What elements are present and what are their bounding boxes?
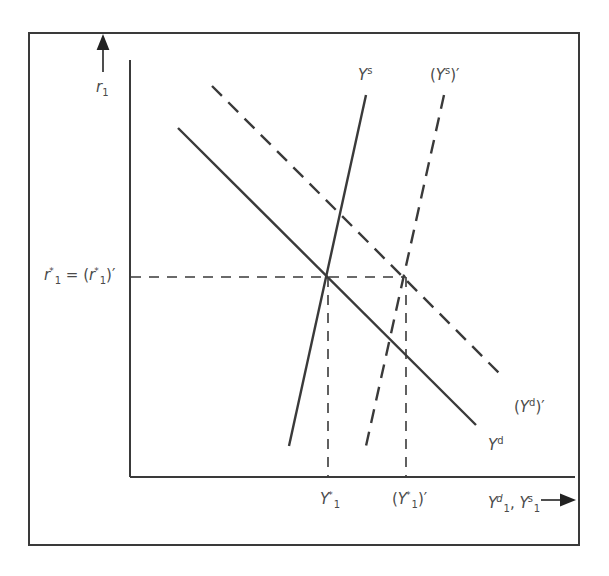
y-axis-label: r1 r_1	[96, 80, 109, 98]
label-equilibrium-rate: r*1 = (r*1)′ r_1^* = (r_1^*)'	[44, 268, 115, 286]
curve-ys-prime	[366, 95, 444, 446]
x-axis-label: Yd1, Ys1 Y_1^d, Y_1^s	[488, 496, 540, 514]
supply-demand-plot	[0, 0, 609, 576]
label-yd: Yd Y^d	[488, 436, 504, 453]
label-ys: Ys Y^s	[358, 66, 372, 83]
label-equilibrium-quantity-new: (Y*1)′ (Y_1^*)'	[392, 492, 427, 510]
label-equilibrium-quantity: Y*1 Y_1^*	[320, 492, 340, 510]
label-ys-prime: (Ys)′ (Y^s)'	[430, 66, 460, 83]
label-yd-prime: (Yd)′ (Y^d)'	[514, 398, 545, 415]
